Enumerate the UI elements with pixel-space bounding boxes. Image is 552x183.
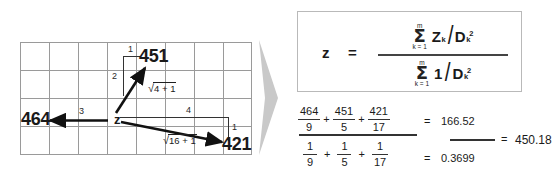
numerator-terms: 464 9 + 451 5 + 421 17 <box>297 104 391 134</box>
sigma-icon: Σ <box>416 66 428 81</box>
denominator-terms: 1 9 + 1 5 + 1 17 <box>302 139 389 169</box>
calculation-denominator-row: 1 9 + 1 5 + 1 17 <box>302 139 389 169</box>
d-base: D <box>455 28 466 45</box>
calc-numerator: 451 <box>333 105 355 118</box>
calc-bar <box>333 119 355 120</box>
formula-equals: = <box>348 44 357 61</box>
calc-numerator: 421 <box>368 105 390 118</box>
calc-denominator: 9 <box>304 121 314 134</box>
plus-sign: + <box>324 148 330 160</box>
calc-denominator: 17 <box>371 121 387 134</box>
radical-body-421: 16 + 1 <box>168 134 197 146</box>
calculation-numerator-row: 464 9 + 451 5 + 421 17 <box>297 104 391 134</box>
calc-bar <box>298 119 320 120</box>
equals-denominator: = <box>424 152 430 164</box>
formula-fraction-bar <box>378 54 508 56</box>
plus-sign: + <box>358 113 364 125</box>
sample-value-464: 464 <box>21 110 50 128</box>
equals-final: = <box>501 133 507 145</box>
calc-denominator: 5 <box>339 121 349 134</box>
calc-bar <box>368 119 390 120</box>
formula-lhs: z <box>322 44 330 61</box>
gray-right-arrow <box>259 40 278 155</box>
offset-label-421-y: 1 <box>232 123 237 132</box>
calc-fraction: 1 5 <box>337 140 351 168</box>
calc-numerator: 1 <box>305 140 315 153</box>
sum-limit-bottom: k = 1 <box>415 81 429 88</box>
sum-limit-bottom: k = 1 <box>412 44 426 51</box>
distance-expression-421: √16 + 1 <box>163 135 197 146</box>
numerator-term: Z k / D k 2 <box>432 25 474 48</box>
summation-denominator: m Σ k = 1 <box>415 60 429 88</box>
numerator-result: 166.52 <box>441 115 475 127</box>
calc-bar <box>303 154 317 155</box>
offset-label-421-x: 4 <box>186 106 191 115</box>
calc-bar <box>372 154 388 155</box>
calc-fraction: 421 17 <box>368 105 390 133</box>
sample-value-421: 421 <box>222 135 251 153</box>
division-slash: / <box>445 59 451 85</box>
calc-bar <box>337 154 351 155</box>
d-superscript: 2 <box>467 66 471 75</box>
formula-denominator: m Σ k = 1 1 / D k 2 <box>378 57 508 90</box>
offset-label-451-x: 1 <box>128 45 133 54</box>
result-fraction-bar <box>450 139 495 141</box>
z-base: Z <box>432 28 441 45</box>
summation-numerator: m Σ k = 1 <box>412 23 426 51</box>
offset-label-464-x: 3 <box>79 107 84 116</box>
plus-sign: + <box>323 113 329 125</box>
one-numerator: 1 <box>434 65 442 82</box>
denominator-result: 0.3699 <box>441 152 475 164</box>
d-term: D k 2 <box>455 28 474 45</box>
calc-denominator: 17 <box>372 156 388 169</box>
offset-label-451-y: 2 <box>112 72 117 81</box>
d-superscript: 2 <box>469 29 473 38</box>
calc-numerator: 1 <box>339 140 349 153</box>
calculation-main-bar <box>299 134 417 136</box>
d-term: D k 2 <box>453 65 472 82</box>
distance-expression-451: √4 + 1 <box>148 83 176 94</box>
plus-sign: + <box>358 148 364 160</box>
calc-fraction: 451 5 <box>333 105 355 133</box>
calc-fraction: 464 9 <box>298 105 320 133</box>
denominator-term: 1 / D k 2 <box>434 62 471 85</box>
sigma-icon: Σ <box>413 29 425 44</box>
calc-fraction: 1 9 <box>303 140 317 168</box>
calc-denominator: 5 <box>339 156 349 169</box>
final-result: 450.18 <box>515 133 552 147</box>
d-base: D <box>453 65 464 82</box>
arrow-to-451 <box>116 68 145 113</box>
calc-numerator: 1 <box>375 140 385 153</box>
sample-value-451: 451 <box>139 47 168 65</box>
calc-fraction: 1 17 <box>372 140 388 168</box>
formula-box: z = m Σ k = 1 Z k / D k <box>297 11 522 92</box>
division-slash: / <box>447 22 453 48</box>
formula-fraction: m Σ k = 1 Z k / D k 2 <box>378 20 508 90</box>
formula-numerator: m Σ k = 1 Z k / D k 2 <box>378 20 508 53</box>
grid <box>20 42 252 155</box>
calc-denominator: 9 <box>305 156 315 169</box>
center-point-label: z <box>114 113 121 126</box>
z-term: Z k <box>432 28 446 45</box>
equals-numerator: = <box>424 115 430 127</box>
calc-numerator: 464 <box>298 105 320 118</box>
radical-body-451: 4 + 1 <box>153 82 176 94</box>
z-subscript: k <box>441 35 445 44</box>
